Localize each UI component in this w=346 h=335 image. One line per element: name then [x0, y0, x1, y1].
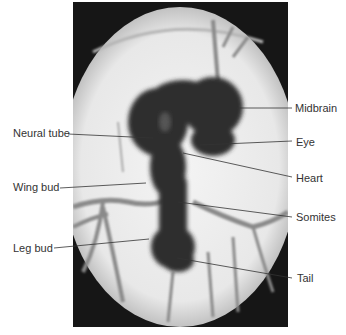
label-eye: Eye — [296, 136, 315, 148]
leader-eye — [200, 141, 292, 145]
leader-somites — [178, 202, 292, 217]
leader-neural-tube — [68, 134, 153, 138]
label-wing-bud: Wing bud — [13, 181, 59, 193]
label-tail: Tail — [297, 272, 314, 284]
leader-leg-bud — [54, 239, 149, 248]
label-heart: Heart — [296, 172, 323, 184]
leader-lines — [0, 0, 346, 335]
label-neural-tube: Neural tube — [13, 127, 70, 139]
leader-tail — [177, 258, 292, 278]
leader-wing-bud — [60, 183, 146, 188]
label-midbrain: Midbrain — [295, 102, 337, 114]
label-leg-bud: Leg bud — [13, 242, 53, 254]
label-somites: Somites — [296, 211, 336, 223]
leader-heart — [183, 153, 292, 177]
